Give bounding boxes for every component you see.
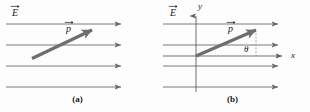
panel-a-field-lines [6,24,121,87]
angle-theta-label: θ [244,45,248,54]
panel-b-group [163,16,282,92]
field-label-b: E [170,8,176,18]
field-label-a-text: E [12,7,18,18]
panel-b-caption: (b) [155,94,310,104]
panel-b-field-lines [163,24,278,87]
dipole-label-b: p [228,24,233,34]
figure-container: E p E p y x θ (a) (b) [0,0,310,112]
dipole-label-a: p [66,24,71,34]
field-label-b-text: E [170,7,176,18]
x-axis-label: x [291,51,295,60]
dipole-vector-arrow-a [32,30,92,59]
y-axis-label: y [198,2,202,11]
panel-a-caption: (a) [0,94,155,104]
dipole-label-b-text: p [228,23,233,34]
panel-a-group [6,24,121,87]
field-label-a: E [12,8,18,18]
dipole-label-a-text: p [66,23,71,34]
